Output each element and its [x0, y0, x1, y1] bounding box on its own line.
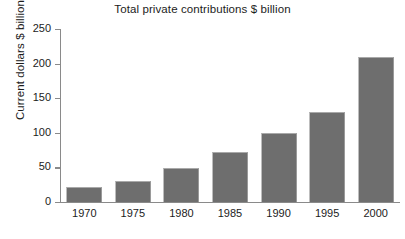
- y-axis-tick-label: 250: [33, 22, 51, 34]
- bar[interactable]: [66, 187, 102, 202]
- bar[interactable]: [163, 168, 199, 202]
- bar[interactable]: [309, 112, 345, 202]
- y-axis-title-container: Current dollars $ billion: [10, 0, 26, 130]
- y-axis-tick-label: 150: [33, 91, 51, 103]
- bar-group[interactable]: 1995: [309, 29, 345, 202]
- y-axis-tick-label: 200: [33, 57, 51, 69]
- bar[interactable]: [261, 133, 297, 202]
- x-axis-tick-label: 1990: [261, 207, 297, 219]
- bar-chart-figure: Total private contributions $ billion Cu…: [0, 0, 405, 239]
- x-axis-line: [59, 202, 400, 203]
- x-axis-tick-label: 1980: [163, 207, 199, 219]
- bar[interactable]: [115, 181, 151, 202]
- bar-group[interactable]: 1975: [115, 29, 151, 202]
- bar-series: 1970197519801985199019952000: [60, 29, 400, 202]
- bar-group[interactable]: 1990: [261, 29, 297, 202]
- chart-title: Total private contributions $ billion: [0, 3, 405, 15]
- y-axis-tick-label: 50: [39, 160, 51, 172]
- bar-group[interactable]: 2000: [358, 29, 394, 202]
- y-axis-tick: 0: [55, 202, 60, 203]
- x-axis-tick-label: 1995: [309, 207, 345, 219]
- y-axis-tick-label: 100: [33, 126, 51, 138]
- x-axis-tick-label: 2000: [358, 207, 394, 219]
- y-axis-title: Current dollars $ billion: [14, 0, 26, 120]
- x-axis-tick-label: 1975: [115, 207, 151, 219]
- bar[interactable]: [358, 57, 394, 202]
- bar-group[interactable]: 1980: [163, 29, 199, 202]
- bar[interactable]: [212, 152, 248, 202]
- y-axis-tick-label: 0: [45, 195, 51, 207]
- x-axis-tick-label: 1985: [212, 207, 248, 219]
- x-axis-tick-label: 1970: [66, 207, 102, 219]
- plot-area: 050100150200250 197019751980198519901995…: [60, 29, 400, 202]
- bar-group[interactable]: 1970: [66, 29, 102, 202]
- bar-group[interactable]: 1985: [212, 29, 248, 202]
